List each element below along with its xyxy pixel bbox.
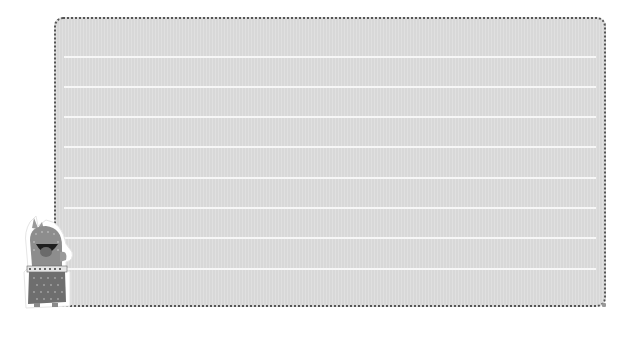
ruled-line bbox=[64, 56, 596, 58]
ruled-line bbox=[64, 268, 596, 270]
ruled-line bbox=[64, 237, 596, 239]
ruled-line bbox=[64, 177, 596, 179]
ruled-line bbox=[64, 116, 596, 118]
lined-notepad bbox=[54, 17, 606, 307]
corner-mark bbox=[602, 303, 606, 307]
ruled-line bbox=[64, 86, 596, 88]
ruled-line bbox=[64, 207, 596, 209]
ruled-line bbox=[64, 146, 596, 148]
cactus-mascot-icon bbox=[16, 214, 78, 314]
